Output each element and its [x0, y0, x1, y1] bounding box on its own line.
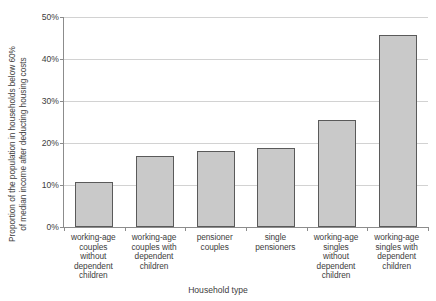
bar[interactable] — [379, 35, 417, 227]
plot-area: 0%10%20%30%40%50% — [63, 17, 428, 228]
x-axis-tick-mark — [246, 227, 247, 231]
y-axis-tick-label: 50% — [29, 12, 59, 22]
bar-slot — [64, 17, 125, 227]
y-axis-title-line-1: Proportion of the population in househol… — [7, 46, 18, 242]
bar[interactable] — [318, 120, 356, 227]
bar[interactable] — [197, 151, 235, 227]
x-axis-category-label-line: children — [306, 271, 367, 281]
x-axis-category-label-line: couples — [184, 243, 245, 253]
x-axis-tick-mark — [307, 227, 308, 231]
x-axis-category-label-line: children — [366, 262, 427, 272]
bar-chart: Proportion of the population in househol… — [0, 0, 436, 301]
bar[interactable] — [257, 148, 295, 227]
bar-slot — [307, 17, 368, 227]
x-axis-category-label: working-agesingles withdependentchildren — [366, 233, 427, 271]
bar[interactable] — [75, 182, 113, 227]
x-axis-category-label-line: children — [124, 262, 185, 272]
x-axis-category-label: working-agesingleswithoutdependentchildr… — [306, 233, 367, 281]
bar-series — [64, 17, 428, 227]
x-axis-tick-mark — [64, 227, 65, 231]
y-axis-tick-label: 30% — [29, 96, 59, 106]
x-axis-tick-mark — [185, 227, 186, 231]
y-axis-tick-label: 0% — [29, 222, 59, 232]
bar-slot — [367, 17, 428, 227]
x-axis-category-label-line: pensioners — [245, 243, 306, 253]
y-axis-title-line-2: of median income after deducting housing… — [18, 57, 29, 230]
x-axis-category-label-line: children — [63, 271, 124, 281]
x-axis-tick-mark — [367, 227, 368, 231]
y-axis-tick-label: 40% — [29, 54, 59, 64]
bar-slot — [125, 17, 186, 227]
x-axis-category-label: working-agecoupleswithoutdependentchildr… — [63, 233, 124, 281]
y-axis-title: Proportion of the population in househol… — [4, 28, 32, 260]
y-axis-tick-label: 10% — [29, 180, 59, 190]
x-axis-category-labels: working-agecoupleswithoutdependentchildr… — [63, 233, 427, 281]
bar[interactable] — [136, 156, 174, 227]
x-axis-category-label: pensionercouples — [184, 233, 245, 252]
x-axis-tick-mark — [428, 227, 429, 231]
y-axis-tick-label: 20% — [29, 138, 59, 148]
x-axis-category-label: singlepensioners — [245, 233, 306, 252]
x-axis-category-label: working-agecouples withdependentchildren — [124, 233, 185, 271]
bar-slot — [246, 17, 307, 227]
bar-slot — [185, 17, 246, 227]
x-axis-title: Household type — [0, 285, 436, 295]
x-axis-tick-mark — [125, 227, 126, 231]
